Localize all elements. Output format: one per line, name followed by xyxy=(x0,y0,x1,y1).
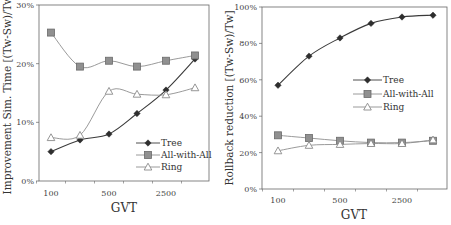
legend-item-all-with-all: All-with-All xyxy=(353,89,434,99)
y-tick-label: 100% xyxy=(234,3,257,12)
legend-label: Ring xyxy=(383,102,404,112)
square-marker xyxy=(48,29,55,36)
legend-item-tree: Tree xyxy=(136,138,182,148)
legend-item-ring: Ring xyxy=(136,162,182,172)
x-tick-label: 100 xyxy=(270,196,285,205)
diamond-marker xyxy=(106,131,112,137)
legend-label: All-with-All xyxy=(160,150,212,160)
y-tick-label: 20% xyxy=(239,149,257,158)
square-marker xyxy=(134,63,141,70)
series-lines xyxy=(47,29,199,155)
y-tick-label: 10% xyxy=(16,118,34,127)
series-tree xyxy=(275,12,436,88)
series-ring xyxy=(47,84,199,141)
series-all-with-all xyxy=(48,29,199,70)
x-tick-label: 2500 xyxy=(392,196,412,205)
y-tick-label: 80% xyxy=(239,39,257,48)
y-axis-label: Rollback reduction [(Tw-Sw)/Tw] xyxy=(223,11,235,186)
square-marker xyxy=(145,152,152,159)
y-tick-label: 30% xyxy=(16,1,34,10)
square-marker xyxy=(364,91,371,98)
x-axis-label: GVT xyxy=(111,201,137,215)
triangle-marker xyxy=(191,84,199,91)
x-axis-ticks: 1005002500 xyxy=(37,181,182,198)
x-tick-label: 100 xyxy=(43,189,58,198)
x-axis-ticks: 1005002500 xyxy=(263,189,418,205)
legend-item-all-with-all: All-with-All xyxy=(136,150,212,160)
square-marker xyxy=(77,63,84,70)
y-tick-label: 60% xyxy=(239,76,257,85)
x-axis-label: GVT xyxy=(341,208,367,222)
legend-item-tree: Tree xyxy=(353,75,404,85)
x-tick-label: 500 xyxy=(101,189,116,198)
diamond-marker xyxy=(399,14,405,20)
legend-label: All-with-All xyxy=(382,89,434,99)
legend: TreeAll-with-AllRing xyxy=(353,75,434,112)
square-marker xyxy=(306,135,313,142)
diamond-marker xyxy=(430,12,436,18)
y-axis-label: Improvement Sim. Time [(Tw-Sw)/Tw] xyxy=(1,0,13,194)
y-axis-ticks: 0%10%20%30% xyxy=(16,1,39,186)
diamond-marker xyxy=(337,35,343,41)
square-marker xyxy=(192,52,199,59)
y-axis-ticks: 0%20%40%60%80%100% xyxy=(234,3,262,194)
legend-label: Ring xyxy=(161,162,182,172)
diamond-marker xyxy=(364,77,370,83)
triangle-marker xyxy=(47,134,55,141)
legend: TreeAll-with-AllRing xyxy=(136,138,212,172)
chart-rollback-reduction: 0%20%40%60%80%100% 1005002500 TreeAll-wi… xyxy=(223,3,447,222)
series-ring xyxy=(274,136,437,154)
charts-figure: 0%10%20%30% 1005002500 TreeAll-with-AllR… xyxy=(0,0,451,225)
square-marker xyxy=(106,57,113,64)
x-tick-label: 2500 xyxy=(156,189,176,198)
triangle-marker xyxy=(105,87,113,94)
series-lines xyxy=(274,12,437,154)
diamond-marker xyxy=(145,140,151,146)
square-marker xyxy=(163,57,170,64)
legend-label: Tree xyxy=(161,138,182,148)
y-tick-label: 0% xyxy=(244,185,257,194)
legend-item-ring: Ring xyxy=(353,102,404,112)
chart-improvement-sim-time: 0%10%20%30% 1005002500 TreeAll-with-AllR… xyxy=(1,0,212,215)
legend-label: Tree xyxy=(383,75,404,85)
diamond-marker xyxy=(48,148,54,154)
y-tick-label: 0% xyxy=(21,177,34,186)
x-tick-label: 500 xyxy=(332,196,347,205)
square-marker xyxy=(275,132,282,139)
diamond-marker xyxy=(368,20,374,26)
y-tick-label: 20% xyxy=(16,60,34,69)
y-tick-label: 40% xyxy=(239,112,257,121)
